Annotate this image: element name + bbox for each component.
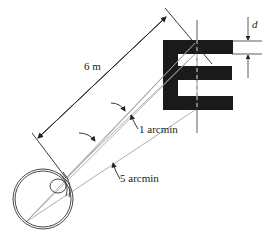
acuity-diagram: d 6 m 1 arcmin 5 arcmin (0, 0, 269, 240)
one-arcmin-label: 1 arcmin (139, 123, 178, 135)
eye-illustration (13, 169, 73, 229)
distance-label: 6 m (84, 60, 101, 72)
d-label: d (252, 18, 258, 30)
distance-dimension (32, 8, 212, 178)
five-arcmin-label: 5 arcmin (120, 172, 159, 184)
d-dimension (232, 17, 262, 78)
